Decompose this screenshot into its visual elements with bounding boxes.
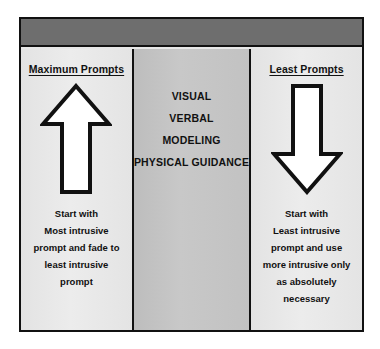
arrow-down-icon bbox=[271, 83, 343, 195]
caption-line: Start with bbox=[33, 205, 119, 222]
diagram-columns: Maximum Prompts Start with Most intrusiv… bbox=[21, 49, 362, 330]
caption-line: more intrusive only bbox=[263, 256, 351, 273]
prompt-types-list: VISUAL VERBAL MODELING PHYSICAL GUIDANCE bbox=[134, 85, 249, 173]
prompt-type-item: PHYSICAL GUIDANCE bbox=[134, 151, 249, 173]
arrow-down-glyph bbox=[271, 83, 343, 195]
prompt-type-item: VISUAL bbox=[134, 85, 249, 107]
least-prompts-caption: Start with Least intrusive prompt and us… bbox=[259, 205, 355, 307]
prompt-type-item: MODELING bbox=[134, 129, 249, 151]
caption-line: Least intrusive bbox=[263, 222, 351, 239]
caption-line: as absolutely bbox=[263, 273, 351, 290]
caption-line: prompt and use bbox=[263, 239, 351, 256]
caption-line: least intrusive bbox=[33, 256, 119, 273]
least-prompts-heading: Least Prompts bbox=[269, 63, 343, 75]
caption-line: necessary bbox=[263, 290, 351, 307]
arrow-up-icon bbox=[40, 83, 112, 195]
column-maximum-prompts: Maximum Prompts Start with Most intrusiv… bbox=[21, 49, 132, 330]
maximum-prompts-caption: Start with Most intrusive prompt and fad… bbox=[29, 205, 123, 290]
caption-line: prompt and fade to bbox=[33, 239, 119, 256]
prompting-hierarchy-diagram: Maximum Prompts Start with Most intrusiv… bbox=[19, 17, 364, 332]
caption-line: prompt bbox=[33, 273, 119, 290]
maximum-prompts-heading: Maximum Prompts bbox=[29, 63, 124, 75]
caption-line: Most intrusive bbox=[33, 222, 119, 239]
caption-line: Start with bbox=[263, 205, 351, 222]
column-least-prompts: Least Prompts Start with Least intrusive… bbox=[251, 49, 362, 330]
arrow-up-glyph bbox=[40, 83, 112, 195]
prompt-type-item: VERBAL bbox=[134, 107, 249, 129]
diagram-header-band bbox=[21, 19, 362, 47]
column-prompt-types: VISUAL VERBAL MODELING PHYSICAL GUIDANCE bbox=[132, 49, 251, 330]
